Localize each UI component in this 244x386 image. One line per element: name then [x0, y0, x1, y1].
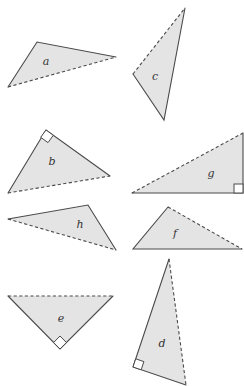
label-d: d — [158, 337, 165, 350]
triangle-e: e — [8, 296, 113, 349]
triangles-diagram: a c b g h f — [0, 0, 244, 386]
label-g: g — [207, 167, 214, 180]
label-c: c — [152, 70, 158, 83]
triangle-g: g — [132, 133, 243, 193]
label-b: b — [48, 155, 55, 168]
triangle-b: b — [8, 130, 110, 193]
label-h: h — [76, 218, 83, 231]
triangle-a: a — [8, 42, 116, 87]
triangle-c: c — [133, 8, 185, 120]
right-angle-marker-g — [234, 184, 243, 193]
triangle-h: h — [8, 205, 116, 250]
triangle-f: f — [133, 207, 242, 249]
label-e: e — [58, 312, 65, 325]
label-a: a — [43, 55, 50, 68]
triangle-d: d — [133, 259, 186, 385]
